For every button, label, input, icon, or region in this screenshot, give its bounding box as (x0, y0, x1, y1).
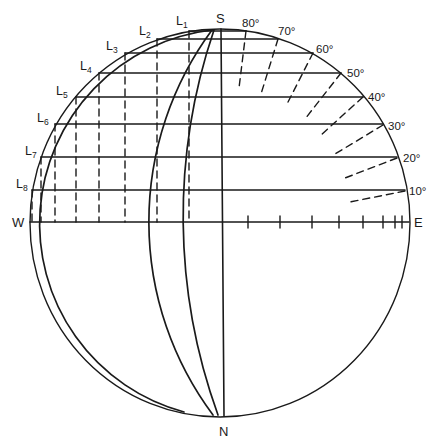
level-label-2: L2 (139, 24, 151, 40)
level-label-5: L5 (56, 84, 68, 100)
projection-dashes-right (239, 31, 405, 202)
pole-label-n: N (219, 424, 228, 439)
level-label-8: L8 (16, 177, 28, 193)
angle-label-60: 60° (316, 43, 333, 55)
angle-label-50: 50° (347, 67, 364, 79)
primitive-circle (30, 29, 410, 417)
level-label-6: L6 (37, 111, 49, 127)
pole-label-s: S (216, 11, 225, 26)
level-label-7: L7 (25, 144, 37, 160)
level-label-3: L3 (106, 39, 118, 55)
angle-label-30: 30° (388, 120, 405, 132)
angle-label-20: 20° (403, 152, 420, 164)
stereographic-diagram: S N W E L1 L2 L3 L4 L5 L6 L7 L8 80° 70° … (0, 0, 438, 443)
level-label-1: L1 (176, 14, 188, 30)
angle-label-80: 80° (242, 17, 259, 29)
great-circle-arc-1 (40, 30, 212, 412)
angle-label-70: 70° (278, 25, 295, 37)
angle-label-40: 40° (368, 91, 385, 103)
level-label-4: L4 (80, 59, 92, 75)
pole-label-e: E (414, 215, 423, 230)
projection-dashes-left (32, 31, 189, 222)
angle-label-10: 10° (409, 185, 426, 197)
pole-label-w: W (12, 215, 25, 230)
level-lines (32, 31, 405, 190)
